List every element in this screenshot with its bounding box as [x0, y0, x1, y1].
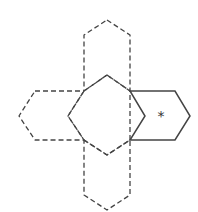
- top-face: [84, 20, 130, 91]
- asterisk-marker: *: [158, 108, 165, 124]
- net-diagram: *: [0, 0, 198, 212]
- center-face: [68, 75, 130, 155]
- bottom-face: [84, 140, 130, 210]
- left-face: [19, 91, 84, 140]
